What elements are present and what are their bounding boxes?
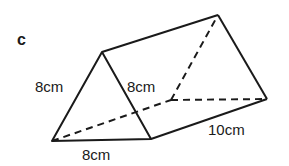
figure-label: c — [17, 31, 26, 48]
length-label: 10cm — [208, 121, 245, 138]
back-right-edge — [218, 15, 267, 99]
front-right-edge-label: 8cm — [127, 78, 155, 95]
prism-diagram: c 8cm 8cm 8cm 10cm — [0, 0, 289, 166]
front-left-edge-label: 8cm — [35, 78, 63, 95]
front-base-label: 8cm — [82, 146, 110, 163]
hidden-edge-back-base — [171, 99, 267, 100]
hidden-edge-front-to-back-bottom — [52, 100, 171, 141]
figure-canvas: c 8cm 8cm 8cm 10cm — [0, 0, 289, 166]
front-triangle-face — [52, 52, 151, 141]
